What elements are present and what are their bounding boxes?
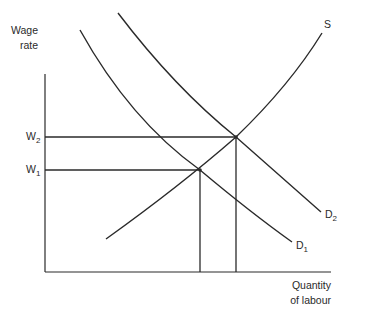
demand-curve-d2 bbox=[118, 13, 321, 212]
labour-market-diagram bbox=[0, 0, 371, 316]
x-axis-label: Quantity of labour bbox=[281, 279, 331, 306]
d1-label: D1 bbox=[296, 239, 308, 256]
w1-label: W1 bbox=[26, 163, 40, 180]
y-axis-label-line2: rate bbox=[6, 39, 38, 51]
demand-curve-d1 bbox=[80, 30, 292, 242]
supply-curve-label: S bbox=[324, 18, 331, 30]
w2-label: W2 bbox=[26, 130, 40, 147]
y-axis-label-line1: Wage bbox=[6, 24, 38, 36]
d2-label: D2 bbox=[325, 208, 337, 225]
y-axis-label: Wage rate bbox=[6, 24, 38, 51]
x-axis-label-line2: of labour bbox=[281, 294, 331, 306]
x-axis-label-line1: Quantity bbox=[281, 279, 331, 291]
supply-curve bbox=[106, 33, 322, 239]
equilibrium-point-1 bbox=[198, 168, 202, 172]
equilibrium-point-2 bbox=[234, 135, 238, 139]
